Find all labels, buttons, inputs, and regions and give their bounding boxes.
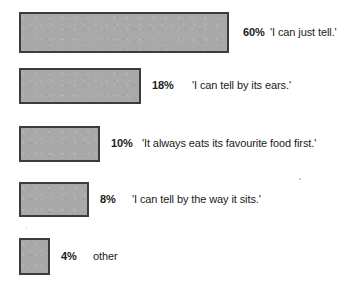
bar-rect [19,238,50,275]
bar-value-label: 10% [111,137,133,149]
scan-speck [299,178,301,180]
bar-value-label: 60% [243,26,265,38]
bar-value-label: 4% [61,250,77,262]
bar-rect [19,126,100,162]
bar-rect [19,182,89,217]
bar-category-label: 'I can tell by the way it sits.' [132,193,261,205]
bar-rect [19,68,141,104]
bar-category-label: 'I can tell by its ears.' [192,79,291,91]
bar-value-label: 8% [100,193,116,205]
bar-category-label: other [93,250,118,262]
bar-value-label: 18% [152,79,174,91]
survey-bar-chart: 60% 'I can just tell.' 18% 'I can tell b… [0,0,364,286]
bar-category-label: 'I can just tell.' [270,26,337,38]
scan-speck [26,228,27,229]
bar-rect [19,12,229,53]
bar-category-label: 'It always eats its favourite food first… [142,137,316,149]
